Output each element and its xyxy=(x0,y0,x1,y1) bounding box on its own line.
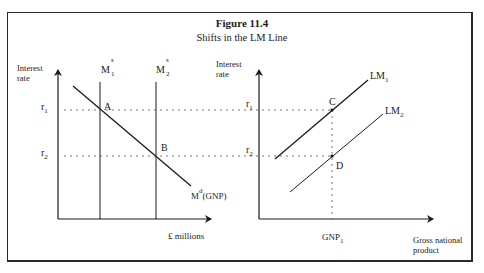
point-a-label: A xyxy=(104,101,111,112)
point-d-label: D xyxy=(336,160,343,171)
point-c-label: C xyxy=(329,96,336,107)
lm1-line xyxy=(275,80,368,159)
right-y-axis-label: Interest rate xyxy=(216,60,242,79)
left-r2-label: r2 xyxy=(41,147,48,161)
left-r1-label: r1 xyxy=(41,101,48,115)
right-r2-label: r2 xyxy=(246,144,253,158)
point-c-marker xyxy=(330,108,333,111)
diagram-canvas xyxy=(0,0,484,273)
point-d-marker xyxy=(330,154,333,157)
money-demand-label: Md(GNP) xyxy=(191,189,227,201)
right-panel xyxy=(259,70,433,219)
lm2-label: LM2 xyxy=(385,105,404,119)
point-b-label: B xyxy=(161,142,168,153)
right-x-axis-label: Gross national product xyxy=(413,236,462,255)
left-y-axis-label: Interest rate xyxy=(17,64,43,83)
lm1-label: LM1 xyxy=(370,70,389,84)
money-supply-1-label: Ms1 xyxy=(101,64,113,78)
gnp1-label: GNP1 xyxy=(322,232,344,245)
money-demand-line xyxy=(73,86,191,186)
right-r1-label: r1 xyxy=(246,98,253,112)
left-x-axis-label: £ millions xyxy=(168,232,204,242)
lm2-line xyxy=(290,114,383,192)
money-supply-2-label: Ms2 xyxy=(156,64,168,78)
